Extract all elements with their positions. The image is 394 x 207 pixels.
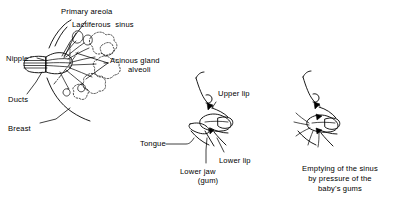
label-acinous-gland: Acinous gland bbox=[110, 56, 160, 65]
caption-sinus-emptying-line3: baby's gums bbox=[288, 184, 392, 193]
breast-upper-contour bbox=[49, 20, 71, 48]
nipple-duct-mid bbox=[205, 121, 228, 122]
milk-spray-5 bbox=[318, 132, 319, 147]
duct-branch-m2 bbox=[72, 64, 96, 65]
sinus-line-3 bbox=[47, 66, 70, 68]
label-upper-lip: Upper lip bbox=[218, 89, 250, 98]
milk-spray-3 bbox=[296, 128, 310, 136]
panel-sinus-emptying bbox=[294, 71, 340, 147]
label-lactiferous-sinus: Lactiferous sinus bbox=[72, 20, 134, 29]
areola-sinus-body bbox=[46, 53, 72, 74]
label-primary-areola: Primary areola bbox=[61, 7, 112, 16]
acinous-lobule-1 bbox=[89, 32, 116, 55]
infant-forehead-right bbox=[303, 71, 311, 77]
label-alveoli: alveoli bbox=[128, 65, 151, 74]
label-ducts: Ducts bbox=[8, 95, 28, 104]
panel-infant-latch bbox=[166, 72, 233, 163]
gum-accent-mid bbox=[209, 128, 214, 134]
infant-forehead-mid bbox=[196, 72, 204, 78]
label-lower-jaw-gum: (gum) bbox=[180, 176, 236, 185]
duct-ampulla-2 bbox=[83, 35, 92, 45]
label-breast: Breast bbox=[8, 124, 31, 133]
lower-lip-mid bbox=[214, 132, 226, 145]
milk-spray-1 bbox=[296, 113, 309, 123]
caption-sinus-emptying-line2: by pressure of the bbox=[288, 174, 392, 183]
duct-branch-m1 bbox=[72, 57, 95, 62]
sinus-line-1 bbox=[47, 59, 70, 61]
breast-contour-mid-upper bbox=[212, 108, 228, 117]
arrow-acinous-gland bbox=[76, 53, 108, 79]
leader-breast bbox=[40, 108, 70, 123]
leader-lower-jaw bbox=[206, 138, 207, 163]
label-tongue: Tongue bbox=[140, 139, 166, 148]
label-lower-jaw: Lower jaw bbox=[180, 167, 216, 176]
label-lower-lip: Lower lip bbox=[219, 156, 251, 165]
nipple-duct-right bbox=[312, 122, 335, 123]
leader-nipple bbox=[37, 58, 44, 60]
breast-chest-line bbox=[55, 27, 67, 46]
caption-sinus-emptying-line1: Emptying of the sinus bbox=[288, 164, 392, 173]
duct-ampulla-3 bbox=[63, 89, 70, 96]
label-nipple: Nipple bbox=[6, 54, 28, 63]
panel-breast-anatomy bbox=[24, 20, 120, 123]
lower-jaw-right bbox=[321, 133, 333, 146]
leader-lower-lip bbox=[217, 138, 224, 152]
duct-branch-u3 bbox=[68, 48, 89, 59]
leader-tongue bbox=[166, 138, 194, 144]
leader-ducts bbox=[27, 72, 42, 94]
figure-root: Primary areola Lactiferous sinus Nipple … bbox=[0, 0, 394, 207]
